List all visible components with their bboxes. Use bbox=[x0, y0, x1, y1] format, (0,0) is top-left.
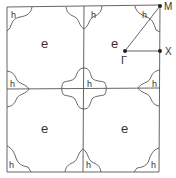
hole-label-top-right: h bbox=[142, 10, 147, 20]
horizontal-zone-divider bbox=[7, 88, 160, 89]
hole-label-right-mid: h bbox=[152, 79, 157, 89]
brillouin-zone-diagram: e e e e h h h h h h h h h Γ X M bbox=[0, 0, 176, 178]
hole-label-left-mid: h bbox=[10, 79, 15, 89]
electron-label-top-left: e bbox=[41, 36, 48, 51]
m-point-label: M bbox=[164, 1, 172, 12]
vertical-zone-divider bbox=[83, 6, 84, 172]
hole-label-center: h bbox=[87, 79, 92, 89]
electron-label-bottom-right: e bbox=[121, 121, 128, 136]
electron-label-bottom-left: e bbox=[41, 121, 48, 136]
hole-label-top-left: h bbox=[11, 10, 16, 20]
x-point-marker bbox=[158, 49, 162, 53]
gamma-point-label: Γ bbox=[121, 54, 127, 66]
hole-label-bottom-left: h bbox=[9, 160, 14, 170]
x-point-label: X bbox=[165, 46, 172, 57]
hole-pocket-top-right bbox=[135, 6, 160, 32]
gamma-point-marker bbox=[123, 49, 127, 53]
electron-label-top-right: e bbox=[111, 36, 118, 51]
hole-label-bottom-mid: h bbox=[86, 160, 91, 170]
hole-label-bottom-right: h bbox=[151, 160, 156, 170]
hole-label-top-mid: h bbox=[91, 10, 96, 20]
m-point-marker bbox=[158, 4, 162, 8]
